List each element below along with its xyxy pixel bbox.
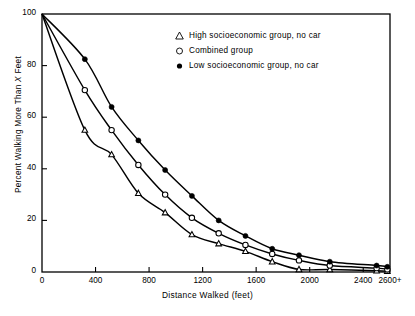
x-tick-label: 800 xyxy=(129,276,169,285)
data-point xyxy=(269,259,275,264)
data-point xyxy=(82,87,87,92)
data-point xyxy=(136,162,141,167)
data-point xyxy=(109,127,114,132)
y-tick-label: 60 xyxy=(10,111,36,120)
data-point xyxy=(243,233,248,238)
data-point xyxy=(296,266,302,271)
y-tick-label: 80 xyxy=(10,60,36,69)
data-point xyxy=(162,192,167,197)
legend-label-low: Low socioeconomic group, no car xyxy=(186,61,319,70)
data-point xyxy=(216,241,222,246)
data-point xyxy=(327,259,332,264)
data-point xyxy=(109,104,114,109)
data-point xyxy=(82,57,87,62)
x-tick-label: 2600+ xyxy=(370,276,410,285)
data-point xyxy=(243,242,248,247)
legend-item-combined: Combined group xyxy=(172,43,321,58)
y-tick-label: 100 xyxy=(10,8,36,17)
data-point xyxy=(270,251,275,256)
x-tick-label: 0 xyxy=(22,276,62,285)
data-point xyxy=(296,253,301,258)
legend-label-high: High socioeconomic group, no car xyxy=(186,31,321,40)
open-circle-icon xyxy=(172,46,186,55)
legend-label-combined: Combined group xyxy=(186,46,253,55)
y-tick-label: 20 xyxy=(10,214,36,223)
x-axis-title: Distance Walked (feet) xyxy=(0,290,415,300)
data-point xyxy=(374,263,379,268)
data-point xyxy=(296,258,301,263)
filled-circle-icon xyxy=(172,61,186,70)
data-point xyxy=(189,231,195,236)
data-point xyxy=(270,246,275,251)
chart-legend: High socioeconomic group, no car Combine… xyxy=(172,28,321,73)
legend-item-low: Low socioeconomic group, no car xyxy=(172,58,321,73)
data-point xyxy=(216,218,221,223)
data-point xyxy=(216,231,221,236)
y-tick-label: 0 xyxy=(10,266,36,275)
x-tick-label: 400 xyxy=(76,276,116,285)
data-point xyxy=(163,168,168,173)
y-tick-label: 40 xyxy=(10,163,36,172)
x-tick-label: 1200 xyxy=(183,276,223,285)
figure: High socioeconomic group, no car Combine… xyxy=(0,0,415,316)
data-point xyxy=(189,193,194,198)
x-tick-label: 2000 xyxy=(290,276,330,285)
open-triangle-icon xyxy=(172,31,186,40)
data-point xyxy=(385,264,390,269)
data-point xyxy=(136,138,141,143)
data-point xyxy=(82,127,88,132)
legend-item-high: High socioeconomic group, no car xyxy=(172,28,321,43)
x-tick-label: 1600 xyxy=(236,276,276,285)
data-point xyxy=(243,248,249,253)
data-point xyxy=(189,215,194,220)
